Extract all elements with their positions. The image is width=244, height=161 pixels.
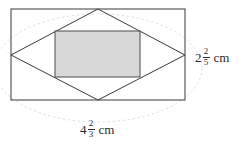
height-numerator: 2 [203, 47, 210, 56]
width-dimension-label: 4 2 3 cm [80, 119, 114, 140]
geometry-figure: 2 2 5 cm 4 2 3 cm [0, 0, 244, 161]
height-fraction: 2 5 [203, 47, 210, 68]
height-dimension-label: 2 2 5 cm [195, 47, 229, 68]
width-denominator: 3 [88, 130, 95, 139]
width-numerator: 2 [88, 119, 95, 128]
height-whole-number: 2 [195, 51, 202, 64]
geometry-canvas [0, 0, 244, 161]
width-fraction: 2 3 [88, 119, 95, 140]
width-unit: cm [99, 123, 115, 136]
height-unit: cm [214, 51, 230, 64]
width-whole-number: 4 [80, 123, 87, 136]
shaded-rectangle [55, 31, 140, 77]
height-denominator: 5 [203, 58, 210, 67]
